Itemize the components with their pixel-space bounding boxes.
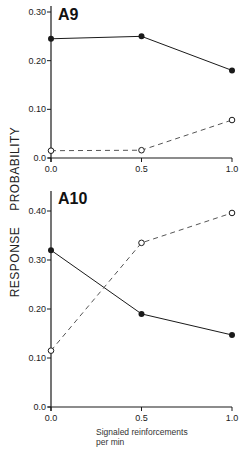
data-point-filled	[229, 332, 235, 338]
data-point-open	[48, 348, 54, 354]
series-line-solid	[51, 250, 232, 335]
x-axis-label: Signaled reinforcements per min	[96, 427, 188, 447]
panel-a10: 0.00.100.200.300.400.00.51.0	[28, 191, 238, 423]
data-point-open	[139, 147, 145, 153]
data-point-open	[139, 240, 145, 246]
panel-title-a10: A10	[58, 190, 87, 208]
y-tick-label: 0.30	[28, 7, 46, 17]
y-axis-label: RESPONSE PROBABILITY	[8, 127, 22, 298]
y-tick-label: 0.10	[28, 353, 46, 363]
x-tick-label: 0.0	[45, 413, 58, 423]
data-point-open	[229, 117, 235, 123]
data-point-filled	[48, 36, 54, 42]
x-tick-label: 0.5	[135, 164, 148, 174]
data-point-filled	[48, 247, 54, 253]
data-point-filled	[139, 33, 145, 39]
y-tick-label: 0.30	[28, 255, 46, 265]
y-tick-label: 0.40	[28, 206, 46, 216]
x-tick-label: 1.0	[226, 164, 239, 174]
y-tick-label: 0.0	[33, 153, 46, 163]
y-tick-label: 0.10	[28, 104, 46, 114]
panel-title-a9: A9	[58, 6, 78, 24]
data-point-open	[229, 210, 235, 216]
chart-figure: 0.00.100.200.300.00.51.0 0.00.100.200.30…	[0, 0, 250, 456]
panel-a9: 0.00.100.200.300.00.51.0	[28, 6, 238, 174]
x-tick-label: 1.0	[226, 413, 239, 423]
x-axis-label-line1: Signaled reinforcements	[96, 427, 188, 437]
y-tick-label: 0.20	[28, 304, 46, 314]
y-tick-label: 0.20	[28, 56, 46, 66]
x-axis-label-line2: per min	[96, 437, 188, 447]
data-point-filled	[229, 67, 235, 73]
series-line-dashed	[51, 213, 232, 351]
x-tick-label: 0.5	[135, 413, 148, 423]
series-line-solid	[51, 36, 232, 70]
data-point-open	[48, 148, 54, 154]
series-line-dashed	[51, 120, 232, 151]
x-tick-label: 0.0	[45, 164, 58, 174]
data-point-filled	[139, 311, 145, 317]
y-tick-label: 0.0	[33, 402, 46, 412]
